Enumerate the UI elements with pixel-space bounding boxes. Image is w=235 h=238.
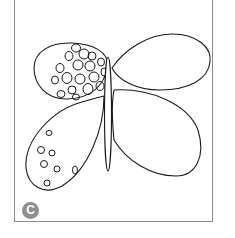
- figure-label-badge: C: [22, 202, 39, 219]
- lower-left-wing: [26, 96, 104, 190]
- upper-left-wing: [34, 43, 108, 99]
- lower-right-wing: [113, 90, 201, 176]
- lower-left-wing-pattern: [38, 131, 78, 187]
- butterfly-drawing: [0, 0, 235, 238]
- upper-left-wing-pattern: [52, 44, 108, 100]
- upper-right-wing: [112, 34, 210, 90]
- butterfly-body: [105, 57, 112, 171]
